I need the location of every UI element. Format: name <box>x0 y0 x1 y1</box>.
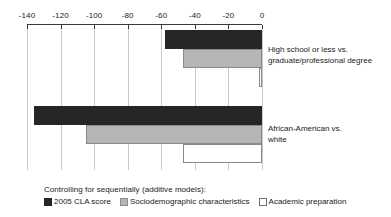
gridline <box>262 29 263 170</box>
x-axis-tick-label: -20 <box>222 11 234 20</box>
bar-gray <box>86 125 262 144</box>
gridline <box>27 29 28 170</box>
category-label-education: High school or less vs. graduate/profess… <box>268 45 390 66</box>
gridline <box>128 29 129 170</box>
gridline <box>161 29 162 170</box>
category-label-race: African-American vs. white <box>268 124 390 145</box>
x-axis-tick-label: -40 <box>189 11 201 20</box>
legend-item: Academic preparation <box>259 197 347 206</box>
gridline <box>94 29 95 170</box>
bar-dark <box>165 30 262 49</box>
x-axis-tick-label: -100 <box>86 11 102 20</box>
bar-dark <box>34 106 262 125</box>
bar-chart: -140-120-100-80-60-40-200 High school or… <box>0 0 391 217</box>
bar-gray <box>183 49 262 68</box>
legend-label: Sociodemographic characteristics <box>130 197 250 206</box>
x-axis-tick-label: -120 <box>52 11 68 20</box>
x-axis-tick-label: 0 <box>260 11 265 20</box>
bar-white <box>259 68 262 87</box>
x-axis-tick-label: -80 <box>122 11 134 20</box>
plot-area: -140-120-100-80-60-40-200 <box>27 24 262 170</box>
legend-label: Academic preparation <box>269 197 347 206</box>
gridline <box>61 29 62 170</box>
x-axis-tick-label: -140 <box>19 11 35 20</box>
legend-label: 2005 CLA score <box>54 197 111 206</box>
legend-swatch-gray <box>120 198 128 206</box>
legend-item: Sociodemographic characteristics <box>120 197 250 206</box>
x-axis-line <box>27 24 262 25</box>
legend-items: 2005 CLA scoreSociodemographic character… <box>44 197 355 206</box>
legend: Controlling for sequentially (additive m… <box>44 185 355 206</box>
legend-title: Controlling for sequentially (additive m… <box>44 185 355 194</box>
bar-white <box>183 144 262 163</box>
legend-swatch-white <box>259 198 267 206</box>
legend-item: 2005 CLA score <box>44 197 111 206</box>
legend-swatch-dark <box>44 198 52 206</box>
x-axis-tick-label: -60 <box>155 11 167 20</box>
